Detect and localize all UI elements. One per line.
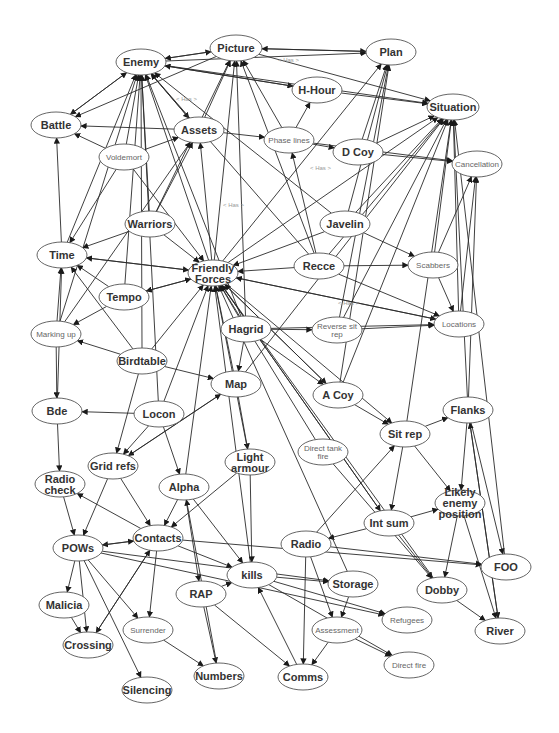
node-voldemort[interactable]: Voldemort: [99, 144, 149, 170]
edge-voldemort-to-battle: [75, 134, 106, 149]
edge-birdtable-to-markingup: [77, 341, 120, 355]
node-directfire[interactable]: Direct fire: [384, 652, 434, 678]
node-acoy[interactable]: A Coy: [313, 382, 363, 408]
node-time[interactable]: Time: [37, 242, 87, 268]
edge-gridrefs-to-contacts: [121, 478, 151, 525]
node-radiocheck[interactable]: Radiocheck: [35, 471, 85, 497]
node-refugees[interactable]: Refugees: [382, 607, 432, 633]
node-lightarmour[interactable]: Lightarmour: [225, 449, 275, 475]
node-reversesitrep[interactable]: Reverse sitrep: [312, 317, 362, 343]
edge-birdtable-to-friendly: [152, 285, 204, 349]
node-rap[interactable]: RAP: [176, 581, 226, 607]
node-sitrep[interactable]: Sit rep: [380, 421, 430, 447]
node-markingup[interactable]: Marking up: [31, 321, 81, 347]
edge-battle-to-enemy: [70, 73, 126, 115]
node-tempo[interactable]: Tempo: [99, 284, 149, 310]
edge-intsum-to-likelyenemy: [411, 509, 438, 517]
node-label: Contacts: [134, 532, 181, 544]
node-storage[interactable]: Storage: [328, 571, 378, 597]
node-malicia[interactable]: Malicia: [39, 592, 89, 618]
edge-picture-to-enemy: [165, 52, 211, 59]
edge-lightarmour-to-kills: [250, 475, 252, 562]
node-directtankfire[interactable]: Direct tankfire: [298, 439, 348, 465]
edge-alpha-to-friendly: [186, 286, 211, 474]
edge-lightarmour-to-friendly: [216, 286, 248, 449]
edge-voldemort-to-enemy: [126, 75, 138, 144]
node-battle[interactable]: Battle: [31, 112, 81, 138]
node-plan[interactable]: Plan: [366, 39, 416, 65]
node-hhour[interactable]: H-Hour: [292, 77, 342, 103]
edge-intsum-to-radio: [329, 529, 367, 539]
edge-rap-to-numbers: [204, 607, 216, 663]
node-hagrid[interactable]: Hagrid: [221, 316, 271, 342]
node-label: Battle: [41, 119, 72, 131]
edge-flanks-to-cancellation: [469, 177, 477, 397]
node-javelin[interactable]: Javelin: [320, 211, 370, 237]
edge-assets-to-phaselines: [223, 133, 264, 138]
node-label: Malicia: [46, 599, 84, 611]
node-intsum[interactable]: Int sum: [364, 510, 414, 536]
node-surrender[interactable]: Surrender: [123, 617, 173, 643]
edge-comms-to-kills: [258, 588, 296, 665]
node-locon[interactable]: Locon: [134, 401, 184, 427]
node-river[interactable]: River: [475, 618, 525, 644]
node-friendly[interactable]: FriendlyForces: [188, 260, 238, 286]
node-label: Time: [49, 249, 74, 261]
node-phaselines[interactable]: Phase lines: [264, 127, 314, 153]
node-radio[interactable]: Radio: [281, 531, 331, 557]
edge-friendly-to-situation: [228, 118, 438, 263]
node-label: Voldemort: [106, 153, 143, 162]
node-enemy[interactable]: Enemy: [116, 49, 166, 75]
node-birdtable[interactable]: Birdtable: [117, 348, 167, 374]
node-picture[interactable]: Picture: [210, 35, 262, 61]
node-label: Recce: [303, 260, 335, 272]
node-warriors[interactable]: Warriors: [125, 211, 175, 237]
edge-contacts-to-radiocheck: [77, 494, 141, 529]
node-label: Scabbers: [416, 261, 450, 270]
node-foo[interactable]: FOO: [481, 554, 531, 580]
edge-birdtable-to-map: [165, 367, 214, 379]
node-label: Phase lines: [268, 136, 309, 145]
edge-malicia-to-crossing: [71, 617, 80, 632]
node-locations[interactable]: Locations: [434, 311, 484, 337]
node-label: Assets: [181, 124, 217, 136]
node-dobby[interactable]: Dobby: [417, 577, 467, 603]
node-crossing[interactable]: Crossing: [63, 632, 113, 658]
node-label: Storage: [333, 578, 374, 590]
node-situation[interactable]: Situation: [427, 94, 479, 120]
node-recce[interactable]: Recce: [294, 253, 344, 279]
edge-reversesitrep-to-plan: [340, 65, 389, 317]
node-flanks[interactable]: Flanks: [443, 397, 493, 423]
edge-sitrep-to-likelyenemy: [415, 446, 451, 491]
node-comms[interactable]: Comms: [278, 664, 328, 690]
node-label: Grid refs: [90, 460, 136, 472]
node-label: Assessment: [315, 626, 359, 635]
node-alpha[interactable]: Alpha: [159, 474, 209, 500]
node-gridrefs[interactable]: Grid refs: [88, 453, 138, 479]
node-numbers[interactable]: Numbers: [194, 663, 244, 689]
node-contacts[interactable]: Contacts: [133, 525, 183, 551]
node-dcoy[interactable]: D Coy: [333, 139, 383, 165]
edge-hagrid-to-acoy: [261, 340, 324, 385]
edge-radiocheck-to-pows: [64, 497, 75, 535]
node-likelyenemy[interactable]: Likelyenemyposition: [435, 486, 485, 520]
edge-bde-to-radiocheck: [58, 424, 60, 471]
node-map[interactable]: Map: [211, 371, 261, 397]
edge-sitrep-to-flanks: [425, 418, 448, 427]
edge-radio-to-foo: [330, 547, 481, 564]
node-cancellation[interactable]: Cancellation: [452, 151, 502, 177]
node-label: kills: [241, 569, 262, 581]
edge-pows-to-malicia: [67, 561, 75, 592]
node-bde[interactable]: Bde: [32, 398, 82, 424]
edge-tempo-to-time: [77, 265, 109, 286]
edge-recce-to-scabbers: [344, 265, 408, 266]
node-label: Likelyenemyposition: [439, 486, 482, 520]
node-scabbers[interactable]: Scabbers: [408, 252, 458, 278]
node-assets[interactable]: Assets: [174, 117, 224, 143]
node-pows[interactable]: POWs: [53, 535, 103, 561]
edge-radio-to-comms: [303, 557, 305, 664]
node-silencing[interactable]: Silencing: [122, 677, 172, 703]
node-assessment[interactable]: Assessment: [312, 617, 362, 643]
edge-assets-to-picture: [205, 61, 231, 118]
node-kills[interactable]: kills: [227, 562, 277, 588]
